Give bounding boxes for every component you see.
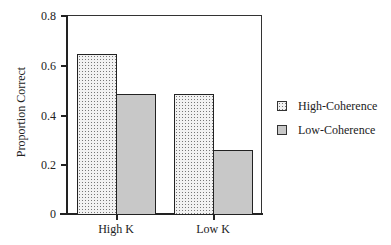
legend-item-high-coherence: High-Coherence [277, 94, 377, 118]
bar-lowk-low-coherence [213, 150, 253, 214]
y-tick-label: 0.8 [16, 10, 56, 22]
y-tick-0.6 [61, 65, 67, 67]
x-tick-label-low-k: Low K [173, 222, 253, 237]
x-tick-label-high-k: High K [76, 222, 156, 237]
gray-swatch-icon [277, 125, 287, 135]
y-tick-label: 0 [16, 208, 56, 220]
legend-label: Low-Coherence [298, 123, 375, 138]
bar-lowk-high-coherence [174, 94, 214, 214]
bar-highk-high-coherence [77, 54, 117, 214]
dotted-swatch-icon [277, 101, 287, 111]
y-tick-label: 0.4 [16, 110, 56, 122]
legend-item-low-coherence: Low-Coherence [277, 118, 377, 142]
bar-highk-low-coherence [116, 94, 156, 214]
legend-label: High-Coherence [298, 99, 377, 114]
bar-chart: Proportion Correct 0 0.2 0.4 0.6 0.8 Hig… [0, 0, 391, 245]
y-tick-0 [61, 213, 67, 215]
legend: High-Coherence Low-Coherence [277, 94, 377, 142]
x-tick-high-k [116, 214, 118, 220]
y-tick-0.2 [61, 164, 67, 166]
y-tick-0.4 [61, 115, 67, 117]
y-tick-label: 0.6 [16, 60, 56, 72]
x-tick-low-k [213, 214, 215, 220]
y-tick-0.8 [61, 15, 67, 17]
y-tick-label: 0.2 [16, 159, 56, 171]
